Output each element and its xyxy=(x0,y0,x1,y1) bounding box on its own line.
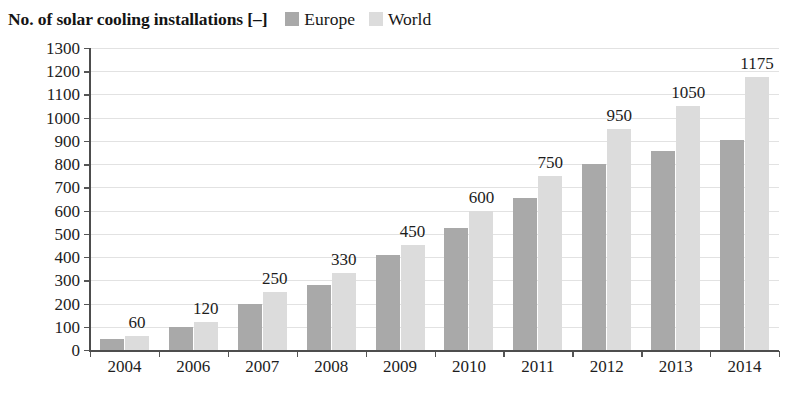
x-tick-label: 2013 xyxy=(659,358,693,375)
legend-swatch-europe-icon xyxy=(285,12,299,26)
bar-value-label: 60 xyxy=(128,314,145,331)
chart-header: No. of solar cooling installations [–] E… xyxy=(8,6,798,32)
bar-europe xyxy=(513,198,537,350)
legend-swatch-world-icon xyxy=(369,12,383,26)
bar-europe xyxy=(444,228,468,350)
bar-europe xyxy=(238,304,262,350)
bar-world xyxy=(332,273,356,350)
bar-value-label: 1050 xyxy=(671,84,705,101)
legend-label-europe: Europe xyxy=(304,9,355,30)
bar-europe xyxy=(651,151,675,350)
bar-value-label: 1175 xyxy=(740,55,773,72)
x-tick-label: 2012 xyxy=(590,358,624,375)
bar-europe xyxy=(720,140,744,350)
bar-value-label: 950 xyxy=(607,107,633,124)
bar-europe xyxy=(307,285,331,350)
bar-value-label: 450 xyxy=(400,223,426,240)
bar-value-label: 600 xyxy=(469,189,495,206)
chart-legend: Europe World xyxy=(285,9,431,30)
bar-world xyxy=(194,322,218,350)
x-tick-label: 2014 xyxy=(728,358,762,375)
bar-europe xyxy=(100,339,124,350)
x-axis: 2004200620072008200920102011201220132014 xyxy=(0,358,806,388)
legend-item-europe: Europe xyxy=(285,9,355,30)
x-tick-label: 2010 xyxy=(452,358,486,375)
bar-europe xyxy=(376,255,400,350)
bar-europe xyxy=(169,327,193,350)
bar-world xyxy=(401,245,425,350)
x-tick-label: 2011 xyxy=(521,358,554,375)
bar-value-label: 250 xyxy=(262,270,288,287)
bar-world xyxy=(745,77,769,350)
bar-value-label: 120 xyxy=(193,300,219,317)
chart-plot-area: 0100200300400500600700800900100011001200… xyxy=(0,34,806,406)
x-tick-label: 2006 xyxy=(176,358,210,375)
bar-world xyxy=(263,292,287,350)
bar-world xyxy=(607,129,631,350)
bar-world xyxy=(538,176,562,350)
bar-world xyxy=(469,211,493,350)
bar-world xyxy=(676,106,700,350)
bar-value-label: 330 xyxy=(331,251,357,268)
page-title: No. of solar cooling installations [–] xyxy=(8,9,267,30)
legend-label-world: World xyxy=(388,9,431,30)
x-tick-label: 2007 xyxy=(245,358,279,375)
x-tick-label: 2008 xyxy=(314,358,348,375)
bar-world xyxy=(125,336,149,350)
bar-value-label: 750 xyxy=(538,154,564,171)
x-tick-label: 2004 xyxy=(107,358,141,375)
bar-europe xyxy=(582,164,606,350)
x-tick-label: 2009 xyxy=(383,358,417,375)
chart-bars: 6012025033045060075095010501175 xyxy=(0,34,806,352)
legend-item-world: World xyxy=(369,9,431,30)
